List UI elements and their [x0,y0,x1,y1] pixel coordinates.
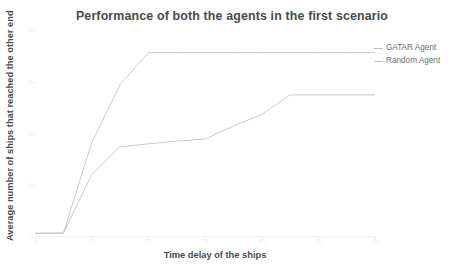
legend-item-gatar-agent[interactable]: GATAR Agent [374,42,458,54]
chart-title: Performance of both the agents in the fi… [42,9,422,23]
y-tick-mark [32,237,35,238]
plot-svg [35,30,375,237]
y-tick-label: 20 [22,27,32,33]
x-tick-label: 50 [315,238,322,244]
legend-label-random-agent: Random Agent [386,56,440,66]
x-tick-label: 20 [145,238,152,244]
chart-legend: GATAR Agent Random Agent [374,42,458,68]
y-tick-label: 0 [22,234,32,240]
x-tick-label: 10 [88,238,95,244]
series-line-random-agent [35,95,375,233]
y-tick-label: 10 [22,131,32,137]
y-tick-label: 5 [22,182,32,188]
plot-area [35,30,375,237]
series-line-gatar-agent [35,53,375,234]
chart-container: Performance of both the agents in the fi… [0,0,459,274]
series-layer [35,53,375,234]
y-axis-title: Average number of ships that reached the… [5,21,15,241]
legend-item-random-agent[interactable]: Random Agent [374,55,458,67]
legend-label-gatar-agent: GATAR Agent [386,43,436,53]
x-axis-title: Time delay of the ships [100,250,330,260]
y-axis-title-wrapper: Average number of ships that reached the… [0,26,20,246]
legend-line-swatch-random [374,61,383,62]
y-tick-label: 15 [22,79,32,85]
x-tick-label: 40 [258,238,265,244]
x-tick-label: 60 [372,238,379,244]
x-tick-label: 30 [202,238,209,244]
legend-line-swatch-gatar [374,48,383,49]
x-tick-label: 0 [33,238,36,244]
